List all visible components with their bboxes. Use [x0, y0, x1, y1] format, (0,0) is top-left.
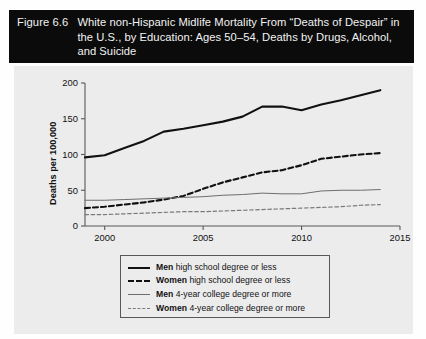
legend-item: Women high school degree or less: [128, 274, 323, 288]
series-line: [85, 153, 380, 208]
y-tick-marks: [81, 83, 85, 226]
legend-line-swatch: [128, 289, 150, 299]
legend-item-label: Men high school degree or less: [156, 262, 277, 272]
x-tick-marks: [105, 226, 400, 230]
chart-axes: [81, 83, 400, 230]
series-line: [85, 90, 380, 157]
y-tick-label: 200: [62, 77, 78, 88]
y-tick-label: 150: [62, 113, 78, 124]
legend-item: Men high school degree or less: [128, 260, 323, 274]
legend-line-swatch: [128, 303, 150, 313]
y-tick-label: 100: [62, 149, 78, 160]
x-tick-label: 2005: [193, 232, 214, 243]
series-line: [85, 190, 380, 201]
x-tick-label: 2000: [94, 232, 115, 243]
legend-item: Men 4-year college degree or more: [128, 287, 323, 301]
legend-item-label: Women 4-year college degree or more: [156, 303, 305, 313]
y-tick-label: 50: [68, 185, 78, 196]
legend-item-label: Men 4-year college degree or more: [156, 289, 291, 299]
legend-item-label: Women high school degree or less: [156, 275, 290, 285]
x-tick-label: 2015: [390, 232, 411, 243]
chart-legend: Men high school degree or lessWomen high…: [120, 255, 330, 318]
legend-item: Women 4-year college degree or more: [128, 301, 323, 315]
y-tick-label: 0: [73, 220, 78, 231]
legend-line-swatch: [128, 275, 150, 285]
chart-series: [85, 90, 380, 214]
legend-line-swatch: [128, 262, 150, 272]
series-line: [85, 205, 380, 215]
x-tick-label: 2010: [291, 232, 312, 243]
y-tick-labels: 050100150200: [62, 77, 78, 231]
figure-container: Figure 6.6 White non-Hispanic Midlife Mo…: [0, 0, 426, 339]
x-tick-labels: 2000200520102015: [94, 232, 410, 243]
y-axis-label: Deaths per 100,000: [48, 122, 58, 205]
